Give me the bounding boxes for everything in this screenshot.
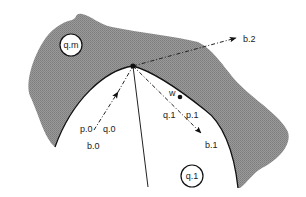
label-p1: p.1 xyxy=(186,110,199,120)
label-b2: b.2 xyxy=(243,34,256,44)
label-q0: q.0 xyxy=(103,124,116,134)
region-q1-label: q.1 xyxy=(186,171,199,181)
label-p0: p.0 xyxy=(80,124,93,134)
label-q1: q.1 xyxy=(163,110,176,120)
label-b0: b.0 xyxy=(87,141,100,151)
solid-edge-line xyxy=(133,66,148,187)
region-qm-label: q.m xyxy=(63,40,78,50)
label-b1: b.1 xyxy=(205,140,218,150)
point-w-label: w xyxy=(168,88,176,98)
point-w-dot xyxy=(178,95,183,100)
diagram-canvas: w q.m q.1 p.0 q.0 b.0 q.1 p.1 b.1 b.2 xyxy=(0,0,306,197)
vertex-point xyxy=(130,63,135,68)
